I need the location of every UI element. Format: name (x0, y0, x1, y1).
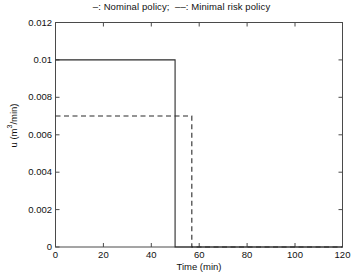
xtick-label: 60 (179, 249, 219, 260)
xtick-label: 120 (323, 249, 363, 260)
y-axis-label-base: u (m (8, 129, 19, 148)
x-axis-label: Time (min) (55, 261, 343, 272)
x-axis-tick-labels: 0 20 40 60 80 100 120 (0, 0, 363, 279)
y-axis-label-tail: /min) (8, 103, 19, 124)
xtick-label: 100 (275, 249, 315, 260)
xtick-label: 20 (83, 249, 123, 260)
xtick-label: 80 (227, 249, 267, 260)
y-axis-label-exponent: 3 (6, 125, 13, 129)
chart-figure: –: Nominal policy; ––: Minimal risk poli… (0, 0, 363, 279)
xtick-label: 40 (131, 249, 171, 260)
xtick-label: 0 (36, 249, 76, 260)
y-axis-label: u (m3/min) (8, 81, 19, 171)
